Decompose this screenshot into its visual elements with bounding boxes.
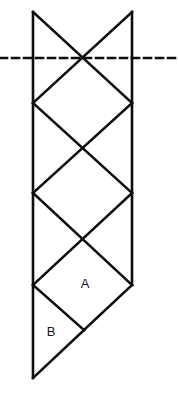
region-label-a: A <box>81 276 90 291</box>
geometry-diagram: AB <box>0 0 178 393</box>
figure-canvas: AB <box>0 0 178 393</box>
region-label-b: B <box>47 324 56 339</box>
